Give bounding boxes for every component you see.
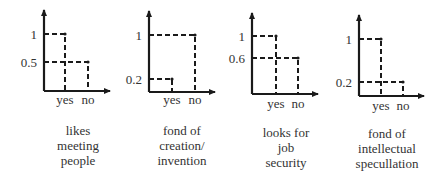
bar-yes: [149, 79, 172, 92]
ytick-high: 1: [31, 27, 38, 42]
xtick-no: no: [397, 98, 410, 113]
xtick-yes: yes: [56, 92, 73, 107]
caption-line: looks for: [236, 125, 336, 140]
ytick-high: 1: [346, 32, 353, 47]
caption-line: security: [236, 155, 336, 170]
xtick-yes: yes: [163, 92, 180, 107]
caption-line: likes: [28, 123, 128, 138]
xtick-no: no: [82, 92, 95, 107]
caption-line: meeting: [28, 138, 128, 153]
caption-line: creation/: [132, 138, 232, 153]
caption-line: intellectual: [337, 141, 437, 156]
xtick-yes: yes: [372, 98, 389, 113]
xtick-yes: yes: [267, 96, 284, 111]
caption-line: people: [28, 153, 128, 168]
caption-line: job: [236, 140, 336, 155]
caption-looks-for-job-security: looks for job security: [236, 125, 336, 170]
ytick-high: 1: [136, 28, 143, 43]
chart-fond-of-creation-invention: 1 0.2 yes no: [126, 11, 215, 107]
caption-fond-of-creation-invention: fond of creation/ invention: [132, 123, 232, 168]
caption-likes-meeting-people: likes meeting people: [28, 123, 128, 168]
bar-yes: [359, 39, 381, 96]
xtick-no: no: [292, 96, 305, 111]
bar-yes: [252, 36, 276, 94]
caption-line: invention: [132, 153, 232, 168]
ytick-high: 1: [239, 29, 246, 44]
ytick-low: 0.6: [229, 51, 246, 66]
xtick-no: no: [189, 92, 202, 107]
ytick-low: 0.2: [336, 75, 352, 90]
chart-likes-meeting-people: 1 0.5 yes no: [21, 10, 110, 107]
caption-fond-of-intellectual-speculation: fond of intellectual specullation: [337, 126, 437, 171]
ytick-low: 0.5: [21, 55, 37, 70]
caption-line: fond of: [132, 123, 232, 138]
caption-line: fond of: [337, 126, 437, 141]
chart-fond-of-intellectual-speculation: 1 0.2 yes no: [336, 15, 424, 113]
caption-line: specullation: [337, 156, 437, 171]
ytick-low: 0.2: [126, 72, 142, 87]
chart-looks-for-job-security: 1 0.6 yes no: [229, 13, 318, 111]
